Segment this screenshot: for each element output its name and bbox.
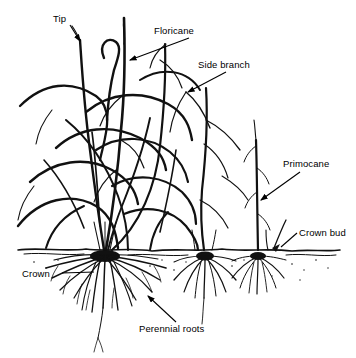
cane-side-branch-d — [204, 144, 228, 178]
cane-arch-low-3 — [46, 206, 84, 248]
primocane-leaflet-c — [245, 192, 257, 208]
primocane-leaflet-b — [257, 168, 269, 184]
cane-cross-4 — [160, 150, 176, 232]
leader-crown-bud — [281, 233, 297, 247]
leader-perennial-roots — [148, 296, 176, 322]
leader-floricane — [130, 38, 189, 60]
crown-shoot-a — [94, 222, 100, 250]
soil-tick-c — [286, 254, 336, 255]
cane-floricane-main — [106, 18, 125, 250]
cane-tip-left — [80, 40, 104, 250]
cane-side-branch-c — [206, 120, 240, 150]
diagram-canvas: Tip Floricane Side branch Primocane Crow… — [0, 0, 356, 358]
soil-speckles — [33, 259, 328, 280]
root-rt-tap — [257, 260, 258, 294]
primocane-leaflet-d — [258, 214, 270, 230]
crown-shoot-m-b — [212, 230, 216, 250]
label-leaders — [62, 25, 300, 322]
cane-arch-mid-3 — [30, 162, 138, 204]
label-side-branch: Side branch — [198, 60, 250, 70]
label-crown: Crown — [22, 269, 50, 279]
cane-side-branch-k — [36, 110, 52, 144]
root-fine-c — [126, 278, 133, 298]
cane-side-branch-l — [18, 186, 34, 220]
root-fine-g — [51, 266, 58, 281]
cane-tip-hook — [72, 26, 80, 40]
root-m-tap3 — [209, 262, 216, 296]
crown-bud-shoot-b — [266, 230, 268, 250]
roots-middle-crown — [174, 230, 236, 324]
cane-arch-right-upper — [140, 72, 200, 90]
soil-line-group — [18, 249, 340, 281]
cane-arch-low-4 — [150, 212, 168, 250]
plant-illustration — [0, 0, 356, 358]
cane-side-branch-i — [200, 200, 228, 228]
cane-side-branch-m — [222, 176, 248, 200]
leader-crown — [62, 272, 94, 273]
root-fine-a — [63, 276, 70, 294]
cane-arch-centre-upper — [86, 95, 192, 140]
leader-primocane — [261, 172, 300, 200]
root-deep-3 — [98, 338, 103, 352]
label-primocane: Primocane — [283, 159, 329, 169]
cane-arch-mid-1 — [56, 129, 166, 170]
leader-tip — [70, 25, 80, 41]
label-floricane: Floricane — [154, 26, 194, 36]
primocane-tip — [254, 120, 256, 140]
primocane-leaflet-a — [244, 146, 256, 162]
root-tap-1 — [103, 260, 105, 308]
root-fine-b — [77, 284, 82, 304]
label-tip: Tip — [53, 14, 66, 24]
cane-primocane — [256, 140, 258, 250]
soil-surface — [18, 249, 340, 251]
roots-right-crown — [232, 252, 286, 294]
label-perennial-roots: Perennial roots — [139, 324, 204, 334]
root-rt-r1 — [259, 257, 284, 278]
root-m-tap — [204, 260, 205, 298]
root-fine-f — [86, 290, 90, 310]
root-deep-1 — [98, 308, 103, 338]
label-crown-bud: Crown bud — [299, 228, 346, 238]
canopy-canes — [18, 18, 248, 250]
root-deep-2 — [94, 338, 98, 352]
root-fine-e — [112, 288, 114, 308]
soil-tick-a — [24, 253, 84, 254]
root-m-deep — [202, 298, 204, 324]
